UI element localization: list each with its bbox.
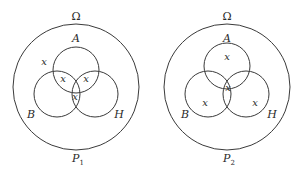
set-a-circle [53, 47, 99, 93]
mark-b-only: x [202, 97, 208, 108]
caption-p1: P1 [71, 152, 84, 167]
mark-h-only: x [252, 97, 258, 108]
mark-a-h: x [83, 73, 89, 84]
venn-diagram-p1: Ω A B H x x x x P1 [13, 10, 139, 167]
set-b-label: B [180, 108, 189, 121]
set-h-label: H [266, 108, 277, 121]
set-a-label: A [222, 32, 231, 45]
venn-diagrams-figure: Ω A B H x x x x P1 Ω A B H x x x x P2 [0, 0, 301, 171]
set-h-circle [72, 71, 118, 117]
universe-label: Ω [222, 10, 231, 23]
venn-diagram-p2: Ω A B H x x x x P2 [164, 10, 290, 167]
set-b-circle [185, 71, 231, 117]
mark-a-outer: x [41, 56, 47, 67]
mark-a-b-h: x [225, 82, 231, 93]
universe-label: Ω [71, 10, 80, 23]
set-b-label: B [26, 108, 35, 121]
caption-p2: P2 [222, 152, 235, 167]
mark-a-b: x [60, 73, 66, 84]
set-h-circle [223, 71, 269, 117]
set-a-label: A [71, 32, 80, 45]
mark-b-h: x [72, 91, 78, 102]
set-h-label: H [113, 108, 124, 121]
mark-a-only: x [224, 51, 230, 62]
